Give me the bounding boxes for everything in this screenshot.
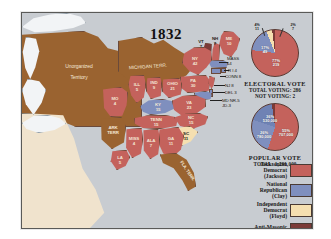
map-plate: 1832 ME 10 VT 7 NH 7 NY 42 PA 30 MASS 14 — [21, 12, 313, 229]
electoral-heading: ELECTORAL VOTE — [238, 80, 312, 87]
legend-label-independent-democrat: Independent Democrat (Floyd) — [238, 201, 290, 219]
state-ME — [218, 31, 240, 57]
legend-item-anti-masonic[interactable]: Anti-Masonic (Wirt) — [238, 223, 312, 229]
electoral-slice-label-nr: 17%49 — [258, 42, 272, 55]
legend-item-jacksonian-democrat[interactable]: Jacksonian Democrat (Jackson) — [238, 161, 312, 179]
popular-heading: POPULAR VOTE — [238, 154, 312, 161]
legend-swatch-national-republican — [290, 184, 312, 197]
region-florida-territory — [160, 153, 196, 191]
electoral-slice-label-jd: 77%219 — [267, 55, 285, 68]
popular-pie-wrap: 55%707,000 36%530,000 26%780,000 — [251, 103, 299, 151]
popular-slice-label-nr: 36%530,000 — [260, 111, 280, 124]
legend-label-anti-masonic: Anti-Masonic (Wirt) — [238, 224, 290, 230]
leader-line-mass — [219, 62, 228, 63]
electoral-not-voting: NOT VOTING: 2 — [238, 93, 312, 99]
state-NH — [211, 43, 220, 61]
state-LA — [110, 150, 130, 170]
state-GA — [158, 127, 184, 157]
leader-line-md — [210, 100, 222, 101]
legend: Jacksonian Democrat (Jackson) National R… — [238, 161, 312, 229]
electoral-pie-wrap: 77%219 17%49 4%11 2%7 — [251, 29, 299, 77]
legend-item-independent-democrat[interactable]: Independent Democrat (Floyd) — [238, 201, 312, 219]
leader-line-nj — [214, 85, 225, 86]
state-KY — [140, 99, 176, 115]
leader-line-del — [213, 92, 225, 93]
legend-label-jacksonian-democrat: Jacksonian Democrat (Jackson) — [238, 161, 290, 179]
leader-line-conn — [220, 76, 226, 77]
state-NC — [174, 113, 208, 129]
legend-swatch-jacksonian-democrat — [290, 164, 312, 177]
region-arkansas-territory — [100, 117, 126, 149]
state-PA — [180, 75, 210, 93]
legend-label-national-republican: National Republican (Clay) — [238, 181, 290, 199]
state-IND — [146, 77, 162, 99]
popular-slice-label-jd: 55%707,000 — [275, 125, 297, 138]
electoral-slice-label-am: 2%7 — [285, 20, 301, 31]
popular-slice-label-other: 26%780,000 — [253, 127, 275, 140]
legend-swatch-independent-democrat — [290, 204, 312, 217]
state-OHIO — [162, 78, 182, 98]
state-ALA — [142, 129, 160, 159]
electoral-map-page: 1832 ME 10 VT 7 NH 7 NY 42 PA 30 MASS 14 — [0, 0, 331, 239]
state-CONN — [211, 68, 221, 74]
leader-line-ri — [224, 70, 229, 71]
page-title: 1832 — [150, 26, 182, 43]
legend-item-national-republican[interactable]: National Republican (Clay) — [238, 181, 312, 199]
legend-swatch-anti-masonic — [290, 223, 312, 229]
electoral-vote-text: ELECTORAL VOTE TOTAL VOTING: 286 NOT VOT… — [238, 80, 312, 99]
